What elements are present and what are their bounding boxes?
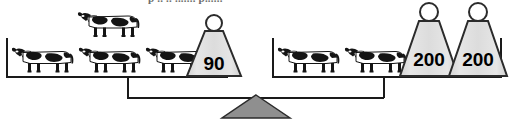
left-pan-wall <box>6 38 8 78</box>
weight-block-200-b: 200 <box>447 2 509 78</box>
cow-left-top-1 <box>76 6 142 39</box>
left-hanger-line <box>128 78 384 98</box>
weight-block-90: 90 <box>183 14 245 78</box>
cow-right-bottom-1 <box>276 41 342 75</box>
right-pan-wall-left <box>272 38 274 78</box>
fulcrum-triangle <box>222 95 290 118</box>
clipped-caption-text: p .. .. ....... p...... <box>148 0 368 4</box>
cow-left-bottom-1 <box>10 41 76 75</box>
cow-left-bottom-2 <box>77 41 143 75</box>
balance-scale-figure: p .. .. ....... p...... <box>0 0 512 120</box>
